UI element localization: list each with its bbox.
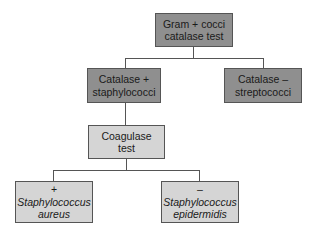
node-sign: + [51,183,57,196]
node-label-line1: Coagulase [101,130,151,143]
node-label-line2: staphylococci [92,86,155,99]
node-coagulase-test: Coagulase test [88,125,165,159]
connector-to-aureus [53,170,54,181]
flowchart-canvas: Gram + cocci catalase test Catalase + st… [0,0,313,233]
node-label-line1: Staphylococcus [163,196,237,209]
node-label-line2: aureus [38,208,70,221]
node-gram-positive-cocci: Gram + cocci catalase test [155,13,233,47]
connector-coagulase-down [126,158,127,170]
connector-to-catalase-pos [125,58,126,68]
node-label-line2: streptococci [235,86,291,99]
node-staphylococcus-epidermidis: – Staphylococcus epidermidis [161,181,239,223]
node-label-line1: Staphylococcus [17,196,91,209]
node-label-line1: Catalase – [238,73,288,86]
connector-coagulase-horizontal [53,170,200,171]
node-catalase-positive: Catalase + staphylococci [87,68,161,103]
node-label-line2: catalase test [165,30,224,43]
connector-root-horizontal [125,58,264,59]
node-label-line1: Catalase + [99,73,150,86]
node-sign: – [197,183,203,196]
connector-to-coagulase [125,102,126,125]
node-staphylococcus-aureus: + Staphylococcus aureus [15,181,93,223]
connector-to-epidermidis [199,170,200,181]
connector-to-catalase-neg [263,58,264,68]
node-label-line1: Gram + cocci [163,18,225,31]
node-label-line2: epidermidis [173,208,227,221]
node-catalase-negative: Catalase – streptococci [224,68,302,103]
connector-root-down [193,46,194,58]
node-label-line2: test [118,142,135,155]
